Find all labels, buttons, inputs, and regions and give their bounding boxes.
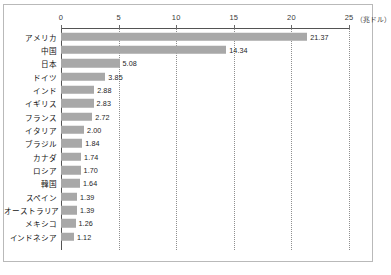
bar-row: スペイン1.39 [4,190,372,203]
bar-row: インド2.88 [4,83,372,96]
value-label: 5.08 [123,59,137,68]
bar-row: オーストラリア1.39 [4,204,372,217]
x-axis-unit-label: （兆ドル） [356,14,391,24]
category-label: 中国 [4,44,57,55]
category-label: カナダ [4,151,57,162]
value-label: 3.85 [108,72,122,81]
bar [61,99,94,108]
category-label: ブラジル [4,138,57,149]
bar [61,46,226,55]
category-label: インド [4,84,57,95]
bar [61,126,84,135]
chart-frame: 0510152025 （兆ドル） アメリカ21.37中国14.34日本5.08ド… [3,4,373,262]
x-tick-15 [234,25,235,29]
x-tick-label-5: 5 [116,13,120,22]
bar [61,86,94,95]
bar-row: 韓国1.64 [4,177,372,190]
category-label: インドネシア [4,231,57,242]
category-label: フランス [4,111,57,122]
category-label: 日本 [4,58,57,69]
bar [61,59,120,68]
bar-row: 日本5.08 [4,57,372,70]
value-label: 14.34 [229,45,248,54]
bar [61,166,81,175]
x-tick-label-0: 0 [59,13,63,22]
value-label: 1.70 [84,166,98,175]
x-tick-25 [349,25,350,29]
bar-row: ロシア1.70 [4,164,372,177]
value-label: 1.84 [85,139,99,148]
category-label: ロシア [4,165,57,176]
bar-row: メキシコ1.26 [4,217,372,230]
x-tick-label-15: 15 [229,13,238,22]
x-tick-20 [291,25,292,29]
bar [61,139,82,148]
category-label: オーストラリア [4,205,57,216]
value-label: 1.64 [83,179,97,188]
value-label: 1.39 [80,192,94,201]
bar-row: 中国14.34 [4,43,372,56]
x-tick-label-10: 10 [172,13,181,22]
bar [61,206,77,215]
category-label: イギリス [4,98,57,109]
bar-row: アメリカ21.37 [4,30,372,43]
category-label: 韓国 [4,178,57,189]
x-tick-label-20: 20 [287,13,296,22]
bar [61,112,92,121]
bar [61,192,77,201]
value-label: 2.83 [97,99,111,108]
bar-row: カナダ1.74 [4,150,372,163]
bar [61,72,105,81]
bar [61,32,307,41]
bar-row: イタリア2.00 [4,123,372,136]
value-label: 1.39 [80,206,94,215]
x-axis-line [61,28,349,29]
x-tick-10 [176,25,177,29]
x-tick-0 [61,25,62,29]
category-label: メキシコ [4,218,57,229]
value-label: 21.37 [310,32,329,41]
category-label: イタリア [4,124,57,135]
bar [61,179,80,188]
value-label: 2.72 [95,112,109,121]
bar-row: ドイツ3.85 [4,70,372,83]
bar [61,152,81,161]
bar [61,219,76,228]
category-label: ドイツ [4,71,57,82]
category-label: アメリカ [4,31,57,42]
value-label: 1.26 [79,219,93,228]
value-label: 1.12 [77,232,91,241]
value-label: 2.00 [87,125,101,134]
bar [61,233,74,242]
bar-row: フランス2.72 [4,110,372,123]
bar-row: イギリス2.83 [4,97,372,110]
x-tick-5 [119,25,120,29]
value-label: 2.88 [97,85,111,94]
value-label: 1.74 [84,152,98,161]
bar-row: ブラジル1.84 [4,137,372,150]
x-tick-label-25: 25 [345,13,354,22]
chart-plot-area: 0510152025 （兆ドル） アメリカ21.37中国14.34日本5.08ド… [4,5,372,261]
category-label: スペイン [4,191,57,202]
bar-row: インドネシア1.12 [4,230,372,243]
